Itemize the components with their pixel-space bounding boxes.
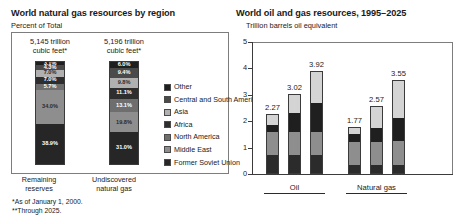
stacked-bar	[392, 80, 405, 174]
bar2-header-line2: cubic feet*	[90, 47, 158, 56]
bar-segment	[267, 125, 278, 132]
group-underline	[346, 193, 407, 194]
bar-segment-value: 9.8%	[118, 80, 131, 86]
bar-segment	[371, 107, 382, 128]
bar-value-label: 3.55	[382, 69, 416, 78]
bar-segment	[393, 81, 404, 118]
bar-segment	[311, 155, 322, 173]
bar-segment-value: 11.1%	[116, 90, 132, 96]
bar-value-label: 2.27	[256, 103, 290, 112]
bar-segment	[393, 118, 404, 141]
bar1-header: 5,145 trillion cubic feet*	[16, 38, 84, 55]
group-label: Oil	[264, 183, 325, 192]
group-label: Natural gas	[346, 183, 407, 192]
bar-segment-value: 31.0%	[116, 145, 132, 151]
legend-label: North America	[174, 133, 220, 141]
legend-label: Middle East	[174, 146, 212, 154]
bar-segment-value: 38.9%	[42, 141, 58, 147]
bar-segment: 31.0%	[110, 132, 138, 164]
legend-swatch-icon	[164, 109, 171, 116]
bar-segment	[371, 128, 382, 141]
bar-segment: 34.0%	[36, 90, 64, 125]
bar2-axis-label-line2: natural gas	[80, 185, 148, 194]
y-axis-tick-mark	[248, 174, 253, 175]
y-axis-tick-label: 4	[236, 64, 247, 71]
legend-swatch-icon	[164, 96, 171, 103]
legend-swatch-icon	[164, 134, 171, 141]
bar-segment	[289, 132, 300, 155]
bar-segment-value: 7.0%	[44, 70, 57, 76]
bar-segment	[349, 165, 360, 173]
bar-segment-value: 9.4%	[118, 70, 131, 76]
y-axis-tick-mark	[248, 148, 253, 149]
footnote-double-asterisk: **Through 2025.	[12, 207, 62, 215]
right-chart-title: World oil and gas resources, 1995–2025	[236, 8, 406, 18]
legend-swatch-icon	[164, 159, 171, 166]
y-axis-tick-mark	[248, 95, 253, 96]
y-axis-tick-label: 1	[236, 144, 247, 151]
bar-segment: 13.1%	[110, 99, 138, 112]
bar-segment	[311, 103, 322, 132]
bar1-header-line2: cubic feet*	[16, 47, 84, 56]
bar-segment	[371, 142, 382, 166]
stacked-bar	[266, 114, 279, 174]
bar1-axis-label: Remaining reserves	[8, 176, 70, 193]
bar-segment	[311, 132, 322, 155]
legend-label: Former Soviet Union	[174, 159, 240, 167]
y-axis-tick-mark	[248, 68, 253, 69]
bar-value-label: 3.92	[300, 60, 334, 69]
bar-segment	[393, 165, 404, 173]
bar-segment: 11.1%	[110, 88, 138, 99]
left-chart-plot-area: 5,145 trillion cubic feet* 5,196 trillio…	[11, 32, 229, 174]
bar-segment	[289, 113, 300, 132]
group-underline	[264, 193, 325, 194]
y-axis-tick-label: 2	[236, 117, 247, 124]
legend-label: Other	[174, 83, 192, 91]
bar2-axis-label: Undiscovered natural gas	[80, 176, 148, 193]
bar-segment	[311, 72, 322, 103]
bar-segment	[393, 141, 404, 165]
legend-swatch-icon	[164, 84, 171, 91]
right-chart-subtitle: Trillion barrels oil equivalent	[246, 21, 337, 30]
bar-segment-value: 6.0%	[118, 62, 131, 68]
bar-segment: 9.4%	[110, 68, 138, 78]
legend-swatch-icon	[164, 146, 171, 153]
legend-label: Asia	[174, 108, 188, 116]
bar-segment	[267, 155, 278, 173]
y-axis-tick-mark	[248, 42, 253, 43]
bar-segment	[371, 165, 382, 173]
bar2-header: 5,196 trillion cubic feet*	[90, 38, 158, 55]
bar-segment	[289, 155, 300, 173]
bar-segment-value: 34.0%	[42, 104, 58, 110]
left-chart-subtitle: Percent of Total	[11, 21, 62, 30]
y-axis-tick-mark	[248, 121, 253, 122]
legend-swatch-icon	[164, 121, 171, 128]
stacked-bar-remaining-reserves: 3.1%4.3%7.0%7.0%5.7%34.0%38.9%	[35, 61, 65, 165]
bar-segment	[267, 115, 278, 125]
stacked-bar	[288, 94, 301, 174]
bar-segment: 38.9%	[36, 124, 64, 164]
bar-segment	[349, 142, 360, 165]
y-axis-tick-label: 5	[236, 38, 247, 45]
bar-value-label: 1.77	[338, 116, 372, 125]
footnote-asterisk: *As of January 1, 2000.	[12, 198, 83, 206]
figure-container: World natural gas resources by region Pe…	[0, 0, 464, 224]
left-chart-title: World natural gas resources by region	[11, 8, 175, 18]
bar1-axis-label-line2: reserves	[8, 185, 70, 194]
stacked-bar	[348, 127, 361, 174]
bar-segment: 7.0%	[36, 70, 64, 77]
bar-segment-value: 19.8%	[116, 120, 132, 126]
bar-segment	[289, 95, 300, 113]
bar-segment-value: 7.0%	[44, 77, 57, 83]
y-axis-tick-label: 3	[236, 91, 247, 98]
bar-segment	[267, 132, 278, 155]
stacked-bar	[310, 71, 323, 174]
bar-value-label: 3.02	[278, 83, 312, 92]
legend-label: Africa	[174, 121, 192, 129]
y-axis-line	[252, 42, 253, 175]
bar-segment: 7.0%	[36, 77, 64, 84]
bar-segment: 9.8%	[110, 78, 138, 88]
stacked-bar	[370, 106, 383, 174]
bar-segment	[349, 134, 360, 142]
left-chart-panel: World natural gas resources by region Pe…	[0, 0, 232, 224]
